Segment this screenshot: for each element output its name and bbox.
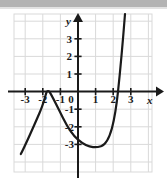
x-axis-label: x [146, 94, 153, 106]
x-tick-label-1: 1 [93, 93, 99, 105]
x-tick-label-neg3: -3 [21, 93, 31, 105]
y-axis-label: y [64, 15, 71, 27]
x-tick-label-3: 3 [128, 93, 134, 105]
coordinate-plane: -3 -2 -1 1 2 3 3 2 1 -1 -2 -3 0 x y [0, 0, 167, 182]
x-axis-arrowhead [156, 87, 164, 97]
y-tick-label-3: 3 [67, 33, 73, 45]
x-tick-label-neg1: -1 [56, 93, 65, 105]
origin-label: 0 [68, 93, 74, 105]
y-tick-label-neg3: -3 [65, 138, 75, 150]
y-tick-label-2: 2 [67, 50, 73, 62]
graph-figure: -3 -2 -1 1 2 3 3 2 1 -1 -2 -3 0 x y [0, 0, 167, 182]
y-tick-label-1: 1 [67, 68, 73, 80]
